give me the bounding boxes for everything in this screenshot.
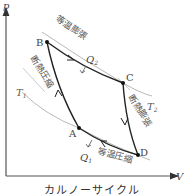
label-t2: T2: [147, 101, 158, 113]
label-process-bc: 等温膨張: [54, 13, 90, 42]
label-q1: Q1: [80, 152, 92, 164]
label-process-da: 等温圧縮: [97, 145, 135, 164]
label-d: D: [140, 147, 148, 158]
heat-out-arrow-icon: [86, 140, 92, 147]
label-a: A: [68, 128, 77, 139]
diagram-caption: カルノーサイクル: [0, 181, 184, 195]
label-t1: T1: [16, 87, 27, 99]
carnot-cycle-diagram: p V B C A D Q2 Q1 T1 T2 等温膨張 断熱圧縮 断熱膨張 等…: [0, 0, 184, 195]
y-axis-label: p: [3, 0, 10, 11]
point-a: [77, 126, 81, 130]
label-process-ab: 断熱圧縮: [28, 53, 56, 89]
label-b: B: [36, 37, 43, 48]
process-bc: [47, 42, 123, 83]
label-q2: Q2: [86, 54, 98, 66]
heat-in-arrow-icon: [80, 66, 86, 73]
point-c: [121, 81, 125, 85]
label-c: C: [126, 72, 134, 83]
point-b: [45, 40, 49, 44]
